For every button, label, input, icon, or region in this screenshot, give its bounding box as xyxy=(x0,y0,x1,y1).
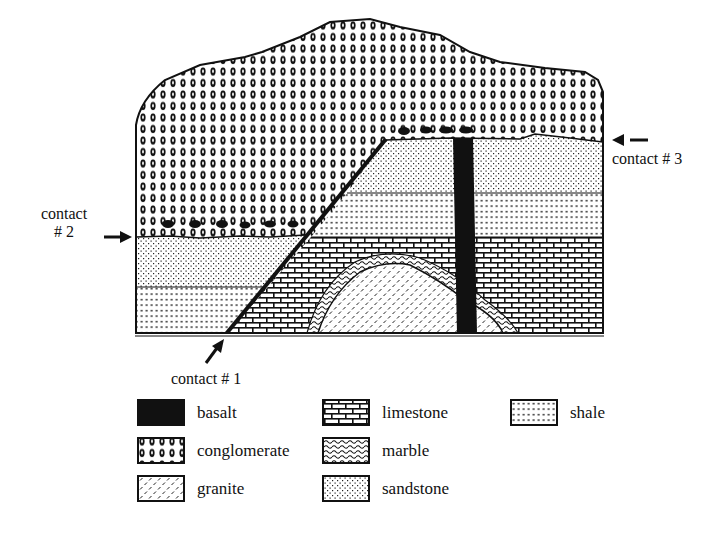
arrow-contact-2 xyxy=(104,231,132,243)
legend-label-basalt: basalt xyxy=(197,403,237,423)
conglomerate-swatch-icon xyxy=(137,437,185,464)
legend-item-conglomerate: conglomerate xyxy=(137,437,290,464)
legend-item-basalt: basalt xyxy=(137,399,237,426)
contact-3-label: contact # 3 xyxy=(612,150,682,168)
contact-2-label-line2: # 2 xyxy=(38,223,90,241)
contact-2-label: contact # 2 xyxy=(38,205,90,241)
legend-label-granite: granite xyxy=(197,479,244,499)
legend-item-marble: marble xyxy=(322,437,429,464)
limestone-swatch-icon xyxy=(322,399,370,426)
granite-swatch-icon xyxy=(137,475,185,502)
shale-swatch-icon xyxy=(510,399,558,426)
legend-label-conglomerate: conglomerate xyxy=(197,441,290,461)
legend-item-granite: granite xyxy=(137,475,244,502)
contact-1-label: contact # 1 xyxy=(171,370,241,388)
legend-label-marble: marble xyxy=(382,441,429,461)
legend-item-sandstone: sandstone xyxy=(322,475,449,502)
arrow-contact-3 xyxy=(612,134,648,146)
basalt-swatch-icon xyxy=(137,399,185,426)
legend-label-sandstone: sandstone xyxy=(382,479,449,499)
arrow-contact-1 xyxy=(206,339,224,363)
legend-item-limestone: limestone xyxy=(322,399,448,426)
sandstone-swatch-icon xyxy=(322,475,370,502)
basalt-dike xyxy=(453,138,477,333)
legend-label-shale: shale xyxy=(570,403,605,423)
marble-swatch-icon xyxy=(322,437,370,464)
legend-label-limestone: limestone xyxy=(382,403,448,423)
legend-item-shale: shale xyxy=(510,399,605,426)
contact-2-label-line1: contact xyxy=(38,205,90,223)
